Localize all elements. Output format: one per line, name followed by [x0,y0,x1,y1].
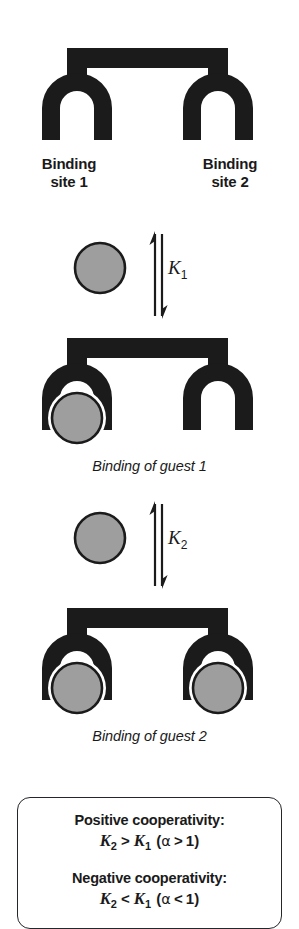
positive-alpha-operator: > [171,832,186,849]
equilibrium-step-2: K2 [0,498,299,594]
positive-k-left: K2 [100,831,117,850]
binding-site-1-label-line1: Binding [42,155,96,172]
negative-paren-close: ) [194,890,199,907]
binding-site-2-label-line1: Binding [203,155,257,172]
negative-alpha-value: 1 [186,890,194,907]
binding-site-1-label-line2: site 1 [14,173,124,191]
host-top-bar [67,608,228,628]
negative-cooperativity-formula: K2<K1(α<1) [18,889,281,910]
binding-site-2-label-line2: site 2 [175,173,285,191]
k2-symbol: K [168,527,181,548]
binding-site-2-label: Binding site 2 [175,155,285,190]
negative-k-right: K1 [134,889,151,908]
negative-cooperativity-heading: Negative cooperativity: [18,870,281,886]
ditopic-host-icon [0,600,299,725]
mono-complex-scene [0,330,299,455]
bis-complex-caption: Binding of guest 2 [0,728,299,744]
guest-sphere-icon [52,393,102,443]
guest-sphere-icon [72,240,128,296]
positive-operator: > [117,832,134,849]
mono-complex-caption: Binding of guest 1 [0,458,299,474]
equilibrium-constant-k1: K1 [168,258,187,281]
ditopic-host-icon [0,40,299,150]
negative-alpha-symbol: α [161,891,171,907]
k1-subscript: 1 [181,268,188,282]
equilibrium-constant-k2: K2 [168,528,187,551]
empty-host-scene [0,40,299,150]
positive-paren-open: ( [151,832,161,849]
binding-site-arch-icon [42,73,112,140]
positive-alpha-symbol: α [161,833,171,849]
negative-alpha-operator: < [171,890,186,907]
positive-paren-close: ) [194,832,199,849]
binding-site-1-label: Binding site 1 [14,155,124,190]
guest-sphere-icon [193,663,243,713]
equilibrium-step-1: K1 [0,228,299,324]
positive-cooperativity-heading: Positive cooperativity: [18,812,281,828]
ditopic-host-icon [0,330,299,455]
positive-cooperativity-formula: K2>K1(α>1) [18,831,281,852]
host-top-bar [67,338,228,358]
positive-alpha-value: 1 [186,832,194,849]
binding-site-arch-icon [183,73,253,140]
negative-k-left: K2 [100,889,117,908]
k2-subscript: 2 [181,538,188,552]
k1-symbol: K [168,257,181,278]
negative-paren-open: ( [151,890,161,907]
binding-site-arch-icon [183,363,253,430]
binding-site-labels: Binding site 1 Binding site 2 [0,155,299,190]
host-top-bar [67,48,228,68]
guest-sphere-icon [72,510,128,566]
guest-sphere-icon [52,663,102,713]
negative-operator: < [117,890,134,907]
cooperativity-note-box: Positive cooperativity: K2>K1(α>1) Negat… [17,797,282,929]
positive-k-right: K1 [134,831,151,850]
bis-complex-scene [0,600,299,725]
